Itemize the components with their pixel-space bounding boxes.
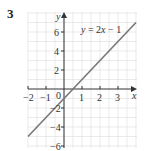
x-tick-label: 2: [97, 92, 102, 103]
x-tick-label: 1: [79, 92, 84, 103]
y-tick-label: −6: [50, 141, 61, 151]
x-tick-label: −1: [40, 92, 51, 103]
y-axis-label: y: [55, 11, 61, 22]
x-axis-label: x: [131, 90, 137, 101]
y-tick-label: −4: [50, 122, 61, 133]
y-tick-label: 6: [54, 27, 59, 38]
origin-label: 0: [56, 90, 61, 101]
equation-label: y = 2x − 1: [80, 24, 121, 35]
x-tick-label: 3: [115, 92, 120, 103]
y-tick-label: 2: [54, 65, 59, 76]
y-tick-label: 4: [54, 46, 59, 57]
y-tick-label: −2: [50, 103, 61, 114]
graph: −2 −1 1 2 3 0 6 4 2 −2 −4 −6 x y y = 2x …: [0, 0, 147, 151]
x-tick-label: −2: [23, 92, 34, 103]
